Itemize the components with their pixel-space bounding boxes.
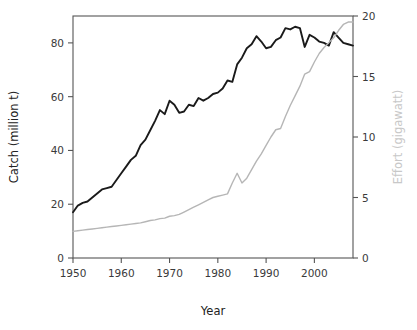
- x-tick-label: 1980: [204, 267, 231, 279]
- y2-tick-label: 15: [362, 71, 375, 83]
- series-line-catch: [73, 27, 353, 213]
- chart-canvas: 195019601970198019902000 020406080 05101…: [0, 0, 417, 330]
- x-tick-label: 1960: [108, 267, 135, 279]
- x-tick-label: 2000: [301, 267, 328, 279]
- y-axis-left-ticks: 020406080: [51, 37, 73, 264]
- x-axis-ticks: 195019601970198019902000: [60, 258, 328, 279]
- y-tick-label: 80: [51, 37, 64, 49]
- x-tick-label: 1970: [156, 267, 183, 279]
- y-tick-label: 60: [51, 91, 64, 103]
- y-axis-right-ticks: 05101520: [353, 10, 375, 264]
- y-tick-label: 40: [51, 144, 64, 156]
- plot-border: [73, 16, 353, 258]
- y-tick-label: 0: [57, 252, 64, 264]
- chart-figure: 195019601970198019902000 020406080 05101…: [0, 0, 417, 330]
- y2-tick-label: 20: [362, 10, 375, 22]
- x-axis-title: Year: [200, 304, 226, 318]
- x-tick-label: 1990: [253, 267, 280, 279]
- y2-tick-label: 0: [362, 252, 369, 264]
- y-tick-label: 20: [51, 198, 64, 210]
- y-axis-left-title: Catch (million t): [7, 91, 21, 183]
- series-line-effort: [73, 22, 353, 231]
- data-series-layer: [73, 22, 353, 231]
- x-tick-label: 1950: [60, 267, 87, 279]
- plot-frame: [73, 16, 353, 258]
- y-axis-right-title: Effort (gigawatt): [391, 90, 405, 184]
- y2-tick-label: 5: [362, 192, 369, 204]
- y2-tick-label: 10: [362, 131, 375, 143]
